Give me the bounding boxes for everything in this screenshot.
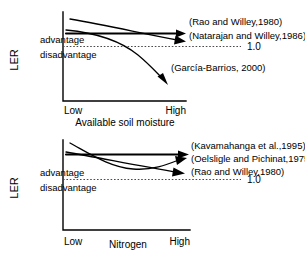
region-label-advantage-nitrogen: advantage [40,167,84,178]
reference-label-moisture-0: (Rao and Willey,1980) [189,16,282,27]
region-label-advantage-moisture: advantage [40,34,84,45]
arrowhead-oelsligle-pichinat-1975 [175,156,187,165]
y-axis-label-moisture: LER [8,49,20,70]
region-label-disadvantage-nitrogen: disadvantage [40,182,97,193]
region-label-disadvantage-moisture: disadvantage [40,49,97,60]
reference-label-nitrogen-0: (Kavamahanga et al.,1995) [191,140,305,151]
panel-available-soil-moisture: LER advantage disadvantage 1.0 (Rao and … [0,0,305,132]
chart-nitrogen: LER advantage disadvantage 1.0 (Kavamaha… [0,132,305,267]
reference-label-moisture-1: (Natarajan and Willey,1986) [189,30,305,41]
reference-label-nitrogen-2: (Rao and Willey,1980) [191,166,284,177]
x-tick-high-nitrogen: High [169,236,190,247]
arrowhead-natarajan-willey-1986 [174,36,186,45]
x-tick-low-nitrogen: Low [64,236,83,247]
unity-value-label-moisture: 1.0 [247,41,261,52]
intercropping-ler-figure: LER advantage disadvantage 1.0 (Rao and … [0,0,305,267]
x-axis-label-nitrogen: Nitrogen [109,239,147,250]
reference-label-moisture-2: (García-Barrios, 2000) [171,62,266,73]
panel-nitrogen: LER advantage disadvantage 1.0 (Kavamaha… [0,132,305,267]
x-tick-low-moisture: Low [64,105,83,116]
chart-moisture: LER advantage disadvantage 1.0 (Rao and … [0,0,305,132]
x-axis-label-moisture: Available soil moisture [75,117,175,128]
curve-natarajan-willey-1986 [70,19,180,41]
reference-label-nitrogen-1: (Oelsligle and Pichinat,1975) [191,153,305,164]
arrowhead-rao-willey-1980-nitrogen [172,168,185,177]
arrowhead-rao-willey-1980 [176,30,186,38]
x-tick-high-moisture: High [165,105,186,116]
y-axis-label-nitrogen: LER [8,177,20,198]
